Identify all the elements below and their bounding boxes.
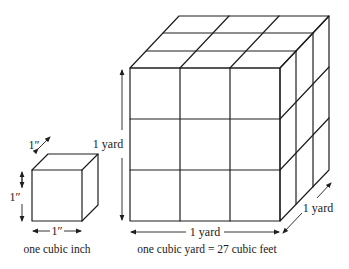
large-cube-caption: one cubic yard = 27 cubic feet [137, 243, 277, 256]
small-width-label: 1″ [52, 224, 63, 238]
large-depth-label: 1 yard [303, 201, 333, 215]
small-height-label: 1″ [10, 190, 21, 204]
large-width-label: 1 yard [190, 225, 220, 239]
small-depth-arrow [38, 137, 50, 149]
small-depth-label: 1″ [29, 138, 40, 152]
volume-diagram: 1″ 1″ 1″ one cubic inch [0, 0, 349, 269]
small-cube [32, 154, 98, 221]
small-cube-caption: one cubic inch [23, 243, 90, 255]
large-cube [130, 16, 329, 221]
large-height-label: 1 yard [93, 137, 123, 151]
